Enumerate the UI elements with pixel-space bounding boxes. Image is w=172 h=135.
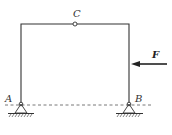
label-b: B: [134, 93, 142, 104]
pin-support-a-icon: [8, 102, 34, 117]
force-arrow-icon: [131, 61, 167, 67]
pin-support-b-icon: [116, 102, 143, 117]
hinge-c-icon: [73, 22, 77, 26]
label-a: A: [4, 93, 12, 104]
frame-members: [21, 24, 129, 103]
label-f: F: [151, 49, 160, 60]
frame-diagram: C A B: [0, 0, 172, 135]
label-c: C: [73, 8, 81, 19]
